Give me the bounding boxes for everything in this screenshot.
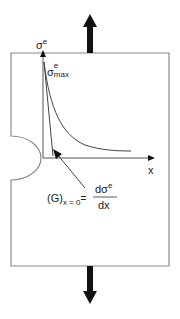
max-stress-label-sup: e bbox=[54, 62, 58, 70]
gradient-numerator: dσe bbox=[95, 184, 112, 195]
y-axis bbox=[40, 50, 46, 158]
gradient-lhs: (G) bbox=[47, 192, 63, 204]
max-stress-label: σemax bbox=[47, 66, 74, 78]
gradient-numerator-base: dσ bbox=[95, 183, 108, 195]
max-stress-label-base: σ bbox=[47, 66, 54, 78]
y-axis-label-sup: e bbox=[43, 37, 47, 46]
notched-specimen-diagram bbox=[0, 0, 180, 319]
gradient-formula-lhs: (G)x = 0= bbox=[47, 193, 86, 204]
gradient-denominator: dx bbox=[98, 200, 110, 211]
y-axis-label: σe bbox=[36, 40, 47, 51]
specimen-outline bbox=[11, 53, 169, 266]
gradient-lhs-sub: x = 0 bbox=[63, 198, 81, 207]
gradient-equals: = bbox=[80, 193, 86, 204]
y-axis-label-base: σ bbox=[36, 39, 43, 51]
max-stress-label-sub: max bbox=[54, 71, 69, 79]
gradient-pointer-arrow-icon bbox=[53, 149, 85, 188]
x-axis-label: x bbox=[148, 165, 154, 176]
load-arrow-up-icon bbox=[83, 14, 97, 53]
load-arrow-down-icon bbox=[83, 266, 97, 304]
gradient-numerator-sup: e bbox=[108, 181, 112, 190]
